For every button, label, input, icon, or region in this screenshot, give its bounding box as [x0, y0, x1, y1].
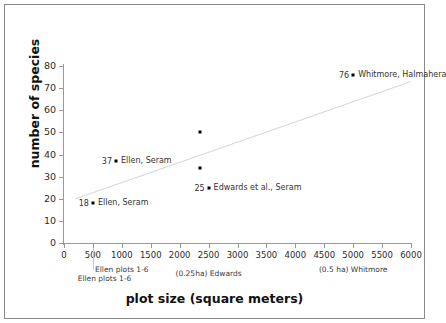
y-tick-mark: [59, 221, 63, 222]
y-tick-mark: [59, 155, 63, 156]
data-point-value: 76: [339, 70, 353, 79]
y-tick-mark: [59, 110, 63, 111]
x-tick-mark: [64, 244, 65, 248]
y-tick-mark: [59, 199, 63, 200]
x-tick-label: 0: [61, 250, 66, 260]
x-axis-annotation: Ellen plots 1-6: [95, 265, 149, 274]
x-tick-label: 5500: [371, 250, 393, 260]
x-tick-mark: [324, 244, 325, 248]
x-tick-mark: [151, 244, 152, 248]
data-point-label: Ellen, Seram: [93, 198, 149, 207]
y-tick-mark: [59, 243, 63, 244]
x-tick-mark: [209, 244, 210, 248]
x-tick-mark: [266, 244, 267, 248]
y-tick-label: 0: [30, 237, 56, 248]
x-tick-label: 3000: [227, 250, 249, 260]
x-axis-title: plot size (square meters): [0, 291, 429, 306]
data-point: [198, 131, 201, 134]
x-tick-label: 2000: [169, 250, 191, 260]
x-tick-label: 2500: [198, 250, 220, 260]
x-tick-mark: [411, 244, 412, 248]
y-axis-line: [63, 64, 64, 245]
data-point-value: 18: [79, 199, 93, 208]
y-tick-label: 70: [30, 82, 56, 93]
x-tick-label: 3500: [256, 250, 278, 260]
x-axis-annotation: Ellen plots 1-6: [78, 274, 132, 283]
x-tick-label: 4500: [313, 250, 335, 260]
data-point-value: 25: [194, 183, 208, 192]
y-tick-label: 10: [30, 215, 56, 226]
x-tick-mark: [122, 244, 123, 248]
x-tick-label: 1500: [140, 250, 162, 260]
y-tick-label: 50: [30, 126, 56, 137]
x-tick-mark: [353, 244, 354, 248]
y-tick-label: 60: [30, 104, 56, 115]
data-point: [198, 166, 201, 169]
x-tick-label: 5000: [342, 250, 364, 260]
data-point-label: Edwards et al., Seram: [209, 182, 302, 191]
x-tick-mark: [238, 244, 239, 248]
y-tick-mark: [59, 88, 63, 89]
data-point-value: 37: [102, 157, 116, 166]
x-tick-label: 4000: [285, 250, 307, 260]
x-tick-label: 1000: [111, 250, 133, 260]
x-tick-label: 6000: [400, 250, 422, 260]
x-axis-annotation: (0.5 ha) Whitmore: [319, 265, 388, 274]
x-axis-annotation: (0.25ha) Edwards: [176, 269, 242, 278]
y-axis-tick-labels: 01020304050607080: [26, 0, 56, 323]
y-tick-mark: [59, 66, 63, 67]
x-tick-mark: [180, 244, 181, 248]
y-tick-label: 80: [30, 60, 56, 71]
data-point-label: Whitmore, Halmahera: [353, 69, 446, 78]
data-point-label: Ellen, Seram: [116, 156, 172, 165]
y-tick-label: 20: [30, 193, 56, 204]
x-tick-mark: [295, 244, 296, 248]
y-tick-mark: [59, 132, 63, 133]
y-tick-mark: [59, 177, 63, 178]
y-tick-label: 40: [30, 149, 56, 160]
y-tick-label: 30: [30, 171, 56, 182]
annotation-leader-line: [93, 248, 94, 270]
x-tick-mark: [382, 244, 383, 248]
